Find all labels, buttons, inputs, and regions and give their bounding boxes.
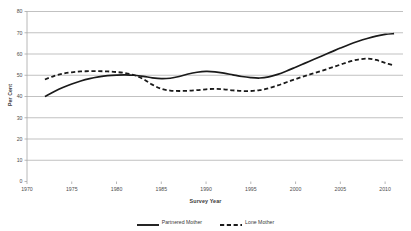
x-axis-tick-label: 1975 — [66, 186, 78, 192]
x-axis-tick-label: 1985 — [156, 186, 168, 192]
series-line-lone-mother — [45, 59, 394, 91]
y-axis-tick-label: 60 — [17, 51, 23, 57]
x-axis-tick-label: 1980 — [111, 186, 123, 192]
legend-label: Partnered Mother — [162, 219, 202, 225]
x-axis-tick-label: 1970 — [21, 186, 33, 192]
y-axis-tick-label: 20 — [17, 136, 23, 142]
y-axis-title: Per Cent — [7, 75, 13, 115]
x-axis-tick-label: 2010 — [379, 186, 391, 192]
x-axis-title: Survey Year — [0, 198, 411, 204]
chart-legend: Partnered MotherLone Mother — [0, 213, 411, 231]
legend-line-swatch-solid — [137, 213, 159, 231]
data-series-group — [45, 34, 394, 97]
legend-label: Lone Mother — [245, 219, 274, 225]
legend-item[interactable]: Lone Mother — [220, 213, 274, 231]
y-axis-tick-label: 80 — [17, 8, 23, 14]
x-axis-tick-label: 1990 — [200, 186, 212, 192]
legend-line-swatch-dashed — [220, 213, 242, 231]
legend-item[interactable]: Partnered Mother — [137, 213, 202, 231]
x-axis-tick-label: 2000 — [290, 186, 302, 192]
chart-container: 01020304050607080 1970197519801985199019… — [0, 0, 411, 231]
y-axis-tick-label: 70 — [17, 30, 23, 36]
x-axis-tick-label: 1995 — [245, 186, 257, 192]
x-axis-tick-label: 2005 — [335, 186, 347, 192]
gridlines-group — [25, 12, 404, 182]
x-axis-tick-marks — [27, 182, 385, 185]
y-axis-tick-label: 0 — [20, 178, 23, 184]
y-axis-tick-label: 40 — [17, 93, 23, 99]
line-chart-plot: 01020304050607080 1970197519801985199019… — [0, 0, 411, 231]
y-axis-tick-label: 10 — [17, 157, 23, 163]
y-axis-tick-labels: 01020304050607080 — [17, 8, 23, 184]
x-axis-tick-labels: 197019751980198519901995200020052010 — [21, 186, 391, 192]
y-axis-tick-label: 30 — [17, 115, 23, 121]
y-axis-tick-label: 50 — [17, 72, 23, 78]
series-line-partnered-mother — [45, 34, 394, 97]
